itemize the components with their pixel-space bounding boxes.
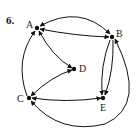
edge-ad	[39, 31, 72, 68]
node-e-dot	[101, 96, 105, 100]
edge-ce	[32, 98, 101, 101]
node-c-dot	[27, 96, 31, 100]
edge-cd	[31, 70, 72, 96]
node-b-dot	[110, 35, 114, 39]
node-label-d: D	[79, 64, 86, 74]
edge-ca-left	[22, 31, 35, 96]
edge-be-left	[102, 40, 110, 95]
node-label-b: B	[116, 29, 123, 39]
node-a-dot	[35, 26, 39, 30]
edge-bc-outer	[31, 39, 129, 127]
edge-be-right	[105, 40, 113, 95]
edges-group	[22, 17, 129, 127]
edge-ab-straight	[40, 29, 109, 37]
node-label-e: E	[100, 103, 106, 113]
node-label-c: C	[17, 94, 24, 104]
node-d-dot	[72, 67, 76, 71]
directed-graph-diagram	[0, 0, 136, 137]
node-label-a: A	[26, 20, 33, 30]
